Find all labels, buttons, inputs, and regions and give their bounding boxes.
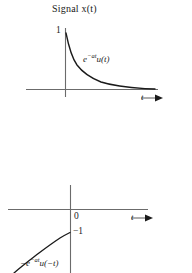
upper-curve-exponential-decay <box>66 33 155 89</box>
lower-x-axis-arrow-head <box>145 215 153 222</box>
lower-y-tick-label-minus1: −1 <box>73 227 83 237</box>
lower-origin-label-0: 0 <box>74 212 79 222</box>
lower-x-axis-label: t <box>131 213 134 222</box>
lower-curve-label-tail: u(−t) <box>40 258 59 268</box>
lower-curve-label-exponent: −at <box>30 256 39 263</box>
signal-figure: Signal x(t) 1 t e−atu(t) 0 −1 t −e−atu(−… <box>0 0 192 273</box>
lower-curve-label: −e−atu(−t) <box>20 259 59 268</box>
upper-x-axis-arrow-head <box>155 95 163 102</box>
upper-curve-label-tail: u(t) <box>96 54 109 64</box>
upper-x-axis-label: t <box>141 93 144 102</box>
upper-curve-label: e−atu(t) <box>83 55 109 64</box>
upper-y-tick-label-1: 1 <box>56 26 61 36</box>
upper-plot-canvas <box>0 0 192 273</box>
lower-curve-label-prefix: −e <box>20 258 30 268</box>
